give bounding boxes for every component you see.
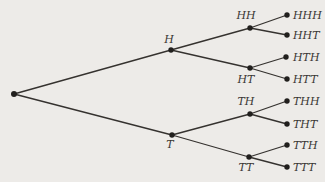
edge-root-H <box>14 50 171 94</box>
node-dot-THH <box>284 98 289 103</box>
edge-T-TT <box>172 135 249 157</box>
edge-T-TH <box>172 114 250 135</box>
edge-HH-HHT <box>250 28 287 35</box>
node-label-TTH: TTH <box>293 139 318 152</box>
node-dot-TH <box>247 111 252 116</box>
node-dot-HT <box>247 65 252 70</box>
node-dot-HHT <box>284 32 289 37</box>
node-dot-HHH <box>284 12 289 17</box>
node-dot-H <box>168 47 173 52</box>
node-dot-TTH <box>284 142 289 147</box>
tree-diagram: HTHHHTTHTTHHHHHTHTHHTTTHHTHTTTHTTT <box>0 0 325 182</box>
edge-root-T <box>14 94 172 135</box>
coin-toss-tree-diagram: HTHHHTTHTTHHHHHTHTHHTTTHHTHTTTHTTT <box>0 0 325 182</box>
edge-H-HT <box>171 50 250 68</box>
edge-TH-THT <box>250 114 287 124</box>
node-label-THT: THT <box>293 118 319 131</box>
node-label-HH: HH <box>235 9 256 22</box>
node-label-TTT: TTT <box>293 161 317 174</box>
node-dot-THT <box>284 121 289 126</box>
node-label-HHH: HHH <box>292 9 322 22</box>
edge-TH-THH <box>250 101 287 114</box>
node-dot-HTH <box>283 54 288 59</box>
edge-TT-TTT <box>249 157 287 167</box>
node-label-THH: THH <box>293 95 320 108</box>
node-label-TT: TT <box>239 161 256 174</box>
node-dot-TTT <box>284 164 289 169</box>
node-label-HTT: HTT <box>292 73 319 86</box>
node-label-TH: TH <box>238 95 255 108</box>
node-label-HHT: HHT <box>292 29 321 42</box>
node-dot-HTT <box>284 76 289 81</box>
node-dot-T <box>169 132 174 137</box>
node-label-H: H <box>163 33 174 46</box>
edge-HT-HTH <box>250 57 286 68</box>
node-label-T: T <box>166 138 175 151</box>
node-label-HT: HT <box>237 73 257 86</box>
edge-HT-HTT <box>250 68 287 79</box>
node-dot-TT <box>246 154 251 159</box>
node-label-HTH: HTH <box>292 51 320 64</box>
edge-H-HH <box>171 28 250 50</box>
edge-TT-TTH <box>249 145 287 157</box>
node-dot-root <box>11 91 17 97</box>
node-dot-HH <box>247 25 252 30</box>
